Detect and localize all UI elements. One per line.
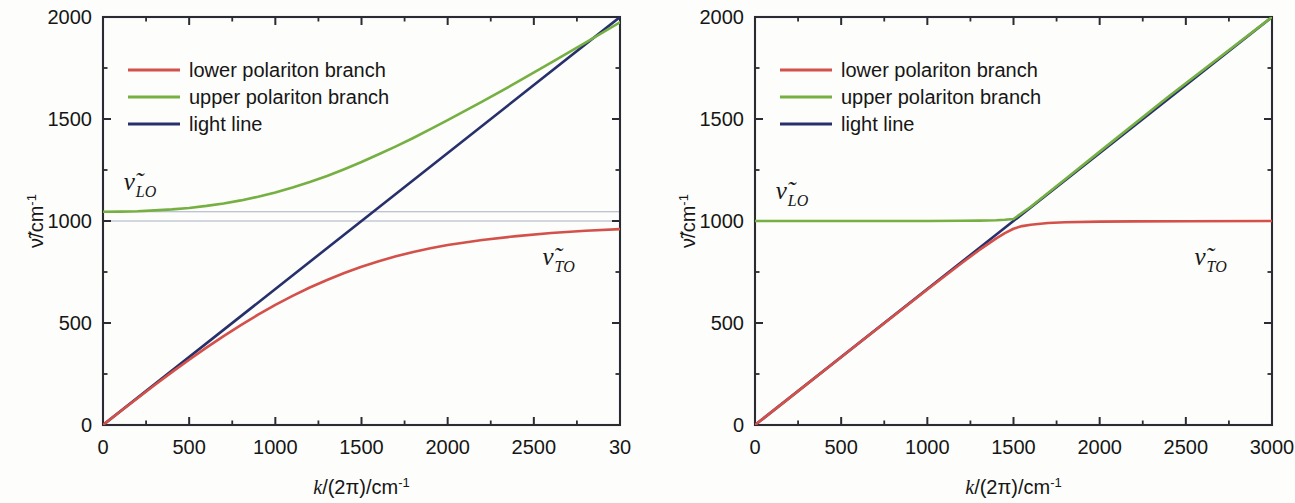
x-tick-label: 0: [749, 436, 760, 458]
legend: lower polariton branchupper polariton br…: [780, 59, 1041, 135]
x-axis-title: k/(2π)/cm-1: [965, 475, 1061, 498]
y-tick-label: 1000: [48, 210, 93, 232]
x-tick-label: 2000: [1077, 436, 1122, 458]
legend-label: light line: [189, 113, 262, 135]
x-tick-label: 1000: [905, 436, 950, 458]
x-tick-label: 0: [97, 436, 108, 458]
y-tick-label: 500: [711, 312, 744, 334]
y-tick-label: 0: [81, 414, 92, 436]
x-tick-label: 2500: [1164, 436, 1209, 458]
y-tick-label: 2000: [700, 6, 745, 28]
chart-panel-left: 05001000150020000500100015002000250030lo…: [0, 0, 648, 503]
y-axis-title: ν̃/cm-1: [24, 194, 47, 248]
y-tick-label: 1500: [48, 108, 93, 130]
polariton-dispersion-figure: 05001000150020000500100015002000250030lo…: [0, 0, 1295, 503]
x-tick-label: 1500: [991, 436, 1036, 458]
y-tick-label: 2000: [48, 6, 93, 28]
series-line-upper-polariton-branch: [103, 22, 620, 212]
y-tick-label: 1000: [700, 210, 745, 232]
y-tick-label: 500: [59, 312, 92, 334]
chart-panel-right: 0500100015002000050010001500200025003000…: [648, 0, 1295, 503]
nu-to-symbol: ν̃TO: [542, 243, 575, 275]
annotation-nu-lo: ν̃LO: [124, 168, 157, 200]
legend-label: upper polariton branch: [189, 86, 389, 108]
x-tick-label: 500: [824, 436, 857, 458]
legend-label: light line: [841, 113, 914, 135]
x-axis-title: k/(2π)/cm-1: [313, 475, 409, 498]
plot-svg-left: 05001000150020000500100015002000250030lo…: [0, 0, 648, 503]
legend: lower polariton branchupper polariton br…: [128, 59, 389, 135]
x-tick-label: 2000: [425, 436, 470, 458]
legend-label: lower polariton branch: [189, 59, 386, 81]
x-tick-label: 500: [172, 436, 205, 458]
annotation-nu-to: ν̃TO: [542, 243, 575, 275]
x-tick-label: 1000: [253, 436, 298, 458]
annotation-nu-lo: ν̃LO: [776, 177, 809, 209]
y-axis-title: ν̃/cm-1: [676, 194, 699, 248]
x-tick-label: 3000: [1250, 436, 1295, 458]
y-tick-label: 0: [733, 414, 744, 436]
nu-to-symbol: ν̃TO: [1194, 243, 1227, 275]
x-tick-label: 2500: [512, 436, 557, 458]
nu-lo-symbol: ν̃LO: [124, 168, 157, 200]
series-line-upper-polariton-branch: [755, 17, 1272, 221]
x-tick-label: 30: [609, 436, 631, 458]
annotation-nu-to: ν̃TO: [1194, 243, 1227, 275]
nu-lo-symbol: ν̃LO: [776, 177, 809, 209]
legend-label: upper polariton branch: [841, 86, 1041, 108]
legend-label: lower polariton branch: [841, 59, 1038, 81]
y-tick-label: 1500: [700, 108, 745, 130]
plot-svg-right: 0500100015002000050010001500200025003000…: [648, 0, 1295, 503]
x-tick-label: 1500: [339, 436, 384, 458]
